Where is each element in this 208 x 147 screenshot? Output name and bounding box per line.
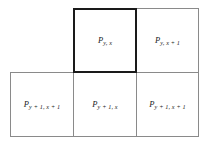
- cell-subscript: y + 1, x: [98, 102, 118, 109]
- grid-cell-top-current: Py, x: [73, 8, 137, 73]
- cell-subscript: y, x: [103, 38, 112, 45]
- cell-label-bottom-left: Py + 1, x + 1: [24, 100, 60, 110]
- grid-cell-top-right: Py, x + 1: [136, 8, 199, 73]
- cell-label-top-right: Py, x + 1: [155, 36, 180, 46]
- cell-label-top-current: Py, x: [98, 36, 112, 46]
- cell-label-bottom-middle: Py + 1, x: [92, 100, 117, 110]
- grid-cell-bottom-middle: Py + 1, x: [73, 72, 137, 137]
- cell-subscript: y + 1, x + 1: [155, 102, 186, 109]
- cell-subscript: y + 1, x + 1: [29, 102, 60, 109]
- cell-subscript: y, x + 1: [160, 38, 180, 45]
- grid-cell-bottom-left: Py + 1, x + 1: [10, 72, 74, 137]
- pixel-neighborhood-diagram: Py, x Py, x + 1 Py + 1, x + 1 Py + 1, x …: [0, 0, 208, 147]
- cell-label-bottom-right: Py + 1, x + 1: [149, 100, 185, 110]
- grid-cell-bottom-right: Py + 1, x + 1: [136, 72, 199, 137]
